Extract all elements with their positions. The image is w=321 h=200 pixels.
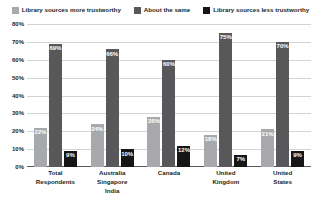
bar-value-label: 75% bbox=[220, 34, 232, 40]
legend-swatch-icon bbox=[12, 7, 19, 14]
legend-item[interactable]: Library sources less trustworthy bbox=[203, 7, 309, 14]
bar[interactable]: 75% bbox=[219, 33, 232, 167]
legend-item[interactable]: About the same bbox=[134, 7, 190, 14]
category-label-line: Respondents bbox=[27, 178, 84, 187]
x-axis-category-label: UnitedStates bbox=[254, 169, 311, 196]
x-axis-category-label: TotalRespondents bbox=[27, 169, 84, 196]
bar[interactable]: 22% bbox=[34, 128, 47, 167]
x-axis-category-label: UnitedKingdom bbox=[197, 169, 254, 196]
category-label-line: United bbox=[197, 169, 254, 178]
bar[interactable]: 28% bbox=[147, 117, 160, 167]
y-axis-tick-label: 70% bbox=[12, 39, 24, 45]
bar-value-label: 28% bbox=[148, 118, 160, 124]
y-axis-tick-label: 50% bbox=[12, 75, 24, 81]
x-axis-category-label: AustraliaSingaporeIndia bbox=[84, 169, 141, 196]
bar[interactable]: 18% bbox=[204, 135, 217, 167]
bar-value-label: 12% bbox=[178, 147, 190, 153]
bar-value-label: 21% bbox=[262, 131, 274, 137]
category-label-line: United bbox=[254, 169, 311, 178]
y-axis-tick-label: 10% bbox=[12, 146, 24, 152]
bar-value-label: 60% bbox=[163, 61, 175, 67]
grouped-bar-chart: Library sources more trustworthyAbout th… bbox=[0, 0, 321, 200]
plot-area: 0%10%20%30%40%50%60%70%80% 22%69%9%24%66… bbox=[27, 24, 311, 167]
bar-value-label: 10% bbox=[121, 151, 133, 157]
bar[interactable]: 21% bbox=[261, 129, 274, 167]
y-axis-tick-label: 80% bbox=[12, 21, 24, 27]
bar-value-label: 24% bbox=[91, 126, 103, 132]
y-axis-tick-label: 40% bbox=[12, 93, 24, 99]
category-label-line: States bbox=[254, 178, 311, 187]
category-label-line: Australia bbox=[84, 169, 141, 178]
bar-groups: 22%69%9%24%66%10%28%60%12%18%75%7%21%70%… bbox=[27, 24, 311, 167]
bar[interactable]: 10% bbox=[121, 149, 134, 167]
legend-item-label: About the same bbox=[144, 7, 190, 13]
category-label-line: India bbox=[84, 187, 141, 196]
bar-value-label: 9% bbox=[66, 152, 75, 158]
bar-group: 24%66%10% bbox=[84, 24, 141, 167]
y-axis-tick-label: 30% bbox=[12, 110, 24, 116]
bar[interactable]: 69% bbox=[49, 44, 62, 167]
x-axis-category-labels: TotalRespondentsAustraliaSingaporeIndiaC… bbox=[27, 169, 311, 196]
legend-swatch-icon bbox=[203, 7, 210, 14]
bar-value-label: 9% bbox=[293, 152, 302, 158]
legend-item-label: Library sources more trustworthy bbox=[22, 7, 121, 13]
category-label-line: Kingdom bbox=[197, 178, 254, 187]
bar[interactable]: 12% bbox=[177, 146, 190, 167]
bar-group: 28%60%12% bbox=[141, 24, 198, 167]
chart-legend: Library sources more trustworthyAbout th… bbox=[0, 0, 321, 20]
bar-group: 18%75%7% bbox=[197, 24, 254, 167]
category-label-line: Total bbox=[27, 169, 84, 178]
bar-value-label: 7% bbox=[236, 156, 245, 162]
y-axis-tick-label: 20% bbox=[12, 128, 24, 134]
bar-value-label: 66% bbox=[106, 51, 118, 57]
bar-value-label: 70% bbox=[277, 43, 289, 49]
y-axis-tick-label: 60% bbox=[12, 57, 24, 63]
bar[interactable]: 9% bbox=[291, 151, 304, 167]
legend-item[interactable]: Library sources more trustworthy bbox=[12, 7, 121, 14]
bar[interactable]: 66% bbox=[106, 49, 119, 167]
legend-item-label: Library sources less trustworthy bbox=[213, 7, 309, 13]
category-label-line: Singapore bbox=[84, 178, 141, 187]
bar-group: 22%69%9% bbox=[27, 24, 84, 167]
x-axis-category-label: Canada bbox=[141, 169, 198, 196]
bar-group: 21%70%9% bbox=[254, 24, 311, 167]
bar[interactable]: 7% bbox=[234, 155, 247, 168]
bar-value-label: 69% bbox=[49, 45, 61, 51]
bar[interactable]: 60% bbox=[162, 60, 175, 167]
bar[interactable]: 9% bbox=[64, 151, 77, 167]
category-label-line: Canada bbox=[141, 169, 198, 178]
bar[interactable]: 24% bbox=[91, 124, 104, 167]
bar[interactable]: 70% bbox=[276, 42, 289, 167]
y-axis-tick-label: 0% bbox=[15, 164, 24, 170]
legend-swatch-icon bbox=[134, 7, 141, 14]
bar-value-label: 18% bbox=[205, 136, 217, 142]
bar-value-label: 22% bbox=[34, 129, 46, 135]
